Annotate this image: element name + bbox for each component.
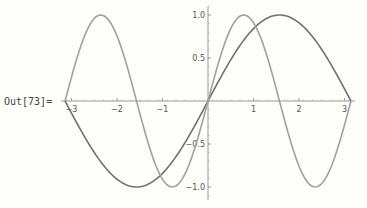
- x-tick-label: −2: [111, 105, 123, 114]
- x-tick-label: 3: [342, 105, 347, 114]
- x-tick-label: 1: [251, 105, 256, 114]
- x-tick-label: 2: [296, 105, 301, 114]
- x-tick-label: −1: [157, 105, 169, 114]
- line-chart: −3−2−11231.00.5−0.5−1.0: [0, 0, 367, 208]
- y-tick-label: −1.0: [186, 183, 205, 192]
- y-tick-label: 1.0: [192, 11, 205, 20]
- y-tick-label: 0.5: [192, 54, 205, 63]
